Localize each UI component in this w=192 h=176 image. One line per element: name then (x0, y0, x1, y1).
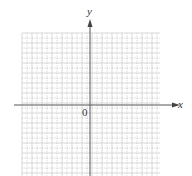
x-axis-label: x (178, 99, 183, 110)
y-axis-arrow-icon (88, 19, 93, 27)
y-axis-label: y (87, 6, 92, 17)
coordinate-plane (0, 0, 192, 176)
origin-label: 0 (82, 107, 88, 118)
